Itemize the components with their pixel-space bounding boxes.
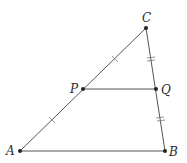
triangle-diagram: A B C P Q bbox=[0, 0, 187, 163]
point-q bbox=[154, 87, 158, 91]
label-q: Q bbox=[161, 83, 171, 97]
point-a bbox=[18, 149, 22, 153]
point-c bbox=[144, 26, 148, 30]
point-b bbox=[163, 149, 167, 153]
label-c: C bbox=[142, 11, 151, 25]
label-p: P bbox=[69, 82, 79, 96]
point-p bbox=[81, 87, 85, 91]
label-a: A bbox=[5, 144, 15, 158]
label-b: B bbox=[168, 145, 178, 159]
